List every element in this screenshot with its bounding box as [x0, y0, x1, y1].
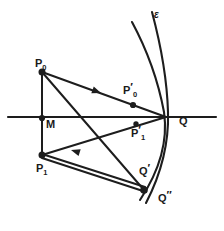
point-m [39, 115, 45, 121]
point-q-double-prime [140, 186, 148, 194]
label-q-base: Q [179, 115, 188, 127]
label-m: M [46, 119, 55, 130]
label-q: Q [179, 116, 188, 127]
figure-canvas [0, 0, 224, 231]
label-p1-subscript: 1 [43, 168, 47, 177]
ray-q-to-p1 [42, 117, 166, 155]
label-p1: P1 [36, 163, 48, 174]
arrowhead-return-ray [70, 147, 81, 157]
point-p0-prime [130, 102, 136, 108]
label-q-prime-base: Q [139, 165, 148, 177]
ray-p1-to-q-double-prime-upper [42, 154, 145, 187]
label-p1-prime-subscript: 1 [141, 133, 145, 142]
label-p1-prime: P′1 [131, 128, 145, 139]
ray-diagram-figure: ε P0 P′0 M P′1 Q P1 Q′ Q″ [0, 0, 224, 231]
label-epsilon: ε [154, 10, 159, 20]
label-p0-prime-subscript: 0 [133, 90, 137, 99]
point-p1 [39, 152, 46, 159]
label-p0-prime: P′0 [123, 85, 137, 96]
label-q-prime-mark: ′ [148, 162, 151, 174]
label-q-prime: Q′ [139, 166, 150, 177]
label-p0-subscript: 0 [42, 63, 46, 72]
label-q-double-prime-mark: ″ [167, 189, 172, 201]
label-m-base: M [46, 118, 55, 130]
label-p0: P0 [35, 58, 47, 69]
label-q-double-prime: Q″ [158, 193, 172, 204]
label-q-double-prime-base: Q [158, 192, 167, 204]
arrowhead-forward-ray [91, 87, 102, 97]
